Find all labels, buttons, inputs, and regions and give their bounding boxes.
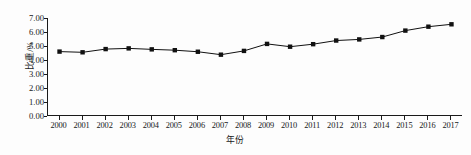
x-tick-mark (174, 116, 175, 120)
data-point-marker (311, 42, 315, 46)
x-tick-mark (82, 116, 83, 120)
data-point-marker (103, 47, 107, 51)
data-point-marker (403, 28, 407, 32)
data-point-marker (380, 35, 384, 39)
x-tick-label: 2005 (166, 121, 182, 130)
data-point-marker (219, 52, 223, 56)
series-line (60, 24, 452, 54)
y-axis-title: 比重/% (23, 26, 35, 86)
y-tick-mark (44, 116, 48, 117)
x-tick-mark (197, 116, 198, 120)
x-tick-label: 2017 (442, 121, 458, 130)
plot-area (47, 18, 462, 116)
x-tick-mark (128, 116, 129, 120)
data-point-marker (334, 38, 338, 42)
data-point-marker (288, 45, 292, 49)
x-tick-mark (335, 116, 336, 120)
x-tick-label: 2009 (258, 121, 274, 130)
data-point-marker (150, 47, 154, 51)
x-tick-label: 2010 (281, 121, 297, 130)
x-tick-label: 2002 (97, 121, 113, 130)
series-line-and-markers (48, 18, 463, 116)
x-tick-label: 2001 (74, 121, 90, 130)
x-tick-mark (381, 116, 382, 120)
x-tick-label: 2012 (327, 121, 343, 130)
x-tick-label: 2007 (212, 121, 228, 130)
data-point-marker (357, 37, 361, 41)
data-point-marker (57, 49, 61, 53)
x-tick-label: 2006 (189, 121, 205, 130)
x-tick-label: 2011 (304, 121, 320, 130)
x-tick-label: 2014 (373, 121, 389, 130)
data-point-marker (173, 48, 177, 52)
x-tick-mark (358, 116, 359, 120)
data-point-marker (426, 24, 430, 28)
x-tick-mark (450, 116, 451, 120)
x-tick-mark (151, 116, 152, 120)
x-tick-mark (266, 116, 267, 120)
data-point-marker (80, 50, 84, 54)
data-point-marker (126, 46, 130, 50)
x-tick-label: 2015 (396, 121, 412, 130)
x-tick-label: 2013 (350, 121, 366, 130)
x-tick-mark (404, 116, 405, 120)
x-tick-mark (59, 116, 60, 120)
data-point-marker (196, 50, 200, 54)
data-point-marker (449, 22, 453, 26)
x-axis-title: 年份 (0, 133, 471, 146)
x-tick-mark (243, 116, 244, 120)
x-tick-label: 2003 (120, 121, 136, 130)
x-tick-mark (427, 116, 428, 120)
x-tick-label: 2000 (50, 121, 66, 130)
x-tick-mark (105, 116, 106, 120)
y-tick-label: 7.00 (14, 13, 44, 23)
y-tick-label: 0.00 (14, 111, 44, 121)
y-tick-label: 1.00 (14, 97, 44, 107)
x-tick-label: 2016 (419, 121, 435, 130)
x-tick-mark (220, 116, 221, 120)
x-tick-mark (289, 116, 290, 120)
x-tick-label: 2004 (143, 121, 159, 130)
data-point-marker (242, 49, 246, 53)
line-chart: 比重/% 0.001.002.003.004.005.006.007.00 20… (0, 0, 471, 155)
data-point-marker (265, 42, 269, 46)
x-tick-label: 2008 (235, 121, 251, 130)
x-tick-mark (312, 116, 313, 120)
